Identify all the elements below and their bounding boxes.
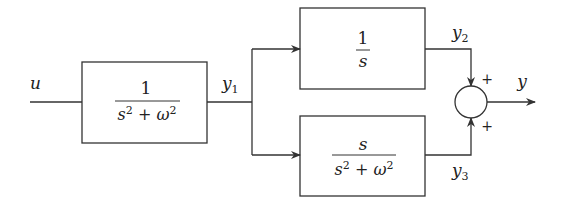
block-diagram: u 1 s2 + ω2 y1 1 s s s2 + ω2 y2 y3 + + y: [0, 0, 563, 206]
block-g2: [300, 8, 425, 89]
block-g3-numerator: s: [359, 134, 368, 154]
output-label: y: [516, 71, 527, 91]
block-g3: [300, 116, 425, 196]
y2-line: [425, 49, 471, 86]
block-g1-numerator: 1: [141, 78, 152, 98]
block-g1: [82, 62, 207, 143]
block-g1-denominator: s2 + ω2: [118, 104, 177, 124]
y2-label: y2: [451, 22, 469, 45]
block-g3-denominator: s2 + ω2: [335, 159, 394, 179]
input-label: u: [30, 73, 41, 93]
summing-junction: [455, 86, 487, 118]
sum-sign-bottom: +: [481, 118, 493, 134]
y1-label: y1: [221, 73, 239, 96]
sum-sign-top: +: [481, 71, 493, 87]
block-g2-numerator: 1: [358, 28, 369, 48]
y3-label: y3: [451, 160, 469, 183]
y3-line: [425, 118, 471, 155]
block-g2-denominator: s: [359, 51, 368, 71]
